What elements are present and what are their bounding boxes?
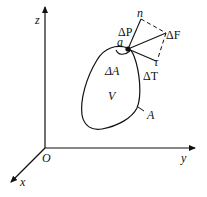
normal-component-label: ΔP [118,25,133,39]
total-force-label: ΔF [166,28,181,42]
x-axis [11,148,45,182]
dashed-F-to-tau [158,33,166,58]
tangential-component-label: ΔT [143,69,159,83]
z-axis-label: z [34,13,40,27]
element-area-label: ΔA [104,64,120,78]
tangent-direction-label: τ [154,55,159,69]
tangent-vector [128,49,156,61]
dashed-n-to-F [141,19,166,33]
normal-direction-label: n [137,6,143,20]
surface-leader [138,107,144,111]
y-axis-label: y [180,151,187,165]
volume-label: V [108,89,117,103]
stress-diagram: z y x O ΔA V A a n ΔP ΔF τ ΔT [0,0,207,197]
body-outline [82,47,140,130]
origin-label: O [42,151,51,165]
surface-label: A [146,108,155,122]
x-axis-label: x [19,175,26,189]
